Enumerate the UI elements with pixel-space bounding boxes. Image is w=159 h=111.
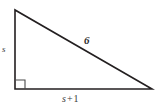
hypotenuse-label: 6 <box>84 35 90 46</box>
base-leg-constant: 1 <box>74 93 79 104</box>
vertical-leg-label: s <box>2 45 6 54</box>
base-leg-variable: s <box>62 93 66 104</box>
base-leg-operator: + <box>67 93 73 104</box>
base-leg-label: s+1 <box>62 94 79 104</box>
triangle-shape <box>15 10 152 89</box>
right-triangle-drawing <box>0 0 159 111</box>
geometry-figure: s s+1 6 <box>0 0 159 111</box>
right-angle-marker-icon <box>16 80 25 89</box>
